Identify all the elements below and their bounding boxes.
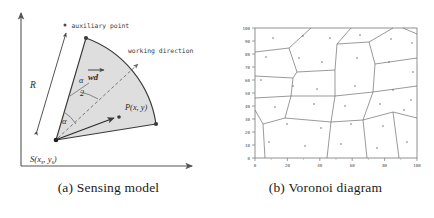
x-tick-label: 80 [382,163,387,168]
panel-b-caption: (b) Voronoi diagram [217,180,434,196]
voronoi-site [411,42,412,43]
voronoi-site [292,85,293,86]
y-tick-label: 0 [248,156,251,161]
voronoi-site [298,57,299,58]
voronoi-site [304,145,305,146]
voronoi-site [268,141,269,142]
voronoi-site [272,37,273,38]
voronoi-site [379,103,380,104]
x-axis-ticks: 0 20 40 60 80 100 [254,158,421,168]
x-tick-label: 0 [254,163,257,168]
panel-a-caption: (a) Sensing model [0,180,217,196]
y-axis-ticks: 0 10 20 30 40 50 60 70 80 90 100 [243,26,255,161]
sensor-label-group: S(xs, ys) [30,154,57,165]
plot-border [255,28,417,158]
voronoi-site [320,127,321,128]
voronoi-site [406,141,407,142]
voronoi-site [274,106,275,107]
y-tick-label: 40 [245,104,250,109]
figure-row: auxiliary point working direction R [0,0,434,218]
angle-half-denominator: 2 [80,89,84,98]
y-tick-label: 20 [245,130,250,135]
voronoi-site [359,34,360,35]
y-tick-label: 90 [245,39,250,44]
y-tick-label: 70 [245,65,250,70]
x-tick-label: 60 [350,163,355,168]
radius-measure: R [29,33,66,131]
voronoi-site [344,105,345,106]
voronoi-site [260,79,261,80]
sensor-apex-dot [54,138,59,143]
voronoi-site [302,35,303,36]
working-direction-label: working direction [128,47,194,55]
voronoi-site [316,88,317,89]
voronoi-site [286,123,287,124]
voronoi-site [356,57,357,58]
wd-vector-label: wd [88,72,99,82]
voronoi-site [313,103,314,104]
point-p-dot [117,115,121,119]
voronoi-site [410,99,411,100]
angle-half-numerator: α [79,76,84,85]
y-tick-label: 30 [245,117,250,122]
voronoi-site [412,71,413,72]
voronoi-site [392,89,393,90]
radius-label: R [29,80,36,90]
sensing-model-canvas: auxiliary point working direction R [0,0,217,182]
auxiliary-point-legend-dot [64,24,67,27]
panel-sensing-model: auxiliary point working direction R [0,0,217,218]
voronoi-site [376,147,377,148]
voronoi-site [265,56,266,57]
voronoi-site [329,37,330,38]
voronoi-site [340,143,341,144]
point-p-label: P(x, y) [124,103,148,112]
voronoi-site [388,61,389,62]
sensor-label: S(xs, ys) [30,154,57,165]
voronoi-canvas: 0 20 40 60 80 100 [217,0,434,182]
auxiliary-point-group: auxiliary point [64,22,130,41]
voronoi-site [321,61,322,62]
voronoi-svg: 0 20 40 60 80 100 [217,0,434,182]
y-tick-label: 100 [243,26,251,31]
auxiliary-point-vertex-dot [84,36,88,40]
auxiliary-point-label: auxiliary point [72,22,130,30]
y-tick-label: 60 [245,78,250,83]
y-tick-label: 10 [245,143,250,148]
y-tick-label: 80 [245,52,250,57]
panel-voronoi-diagram: 0 20 40 60 80 100 [217,0,434,218]
voronoi-site [403,109,404,110]
angle-full-label: α [62,116,67,126]
x-tick-label: 20 [285,163,290,168]
voronoi-site [390,38,391,39]
x-tick-label: 100 [413,163,421,168]
voronoi-site [350,123,351,124]
plot-frame [255,28,417,158]
voronoi-site [382,125,383,126]
arc-endpoint-dot [154,122,158,126]
voronoi-site [354,85,355,86]
y-tick-label: 50 [245,91,250,96]
x-tick-label: 40 [317,163,322,168]
sensing-model-svg: auxiliary point working direction R [0,0,217,182]
